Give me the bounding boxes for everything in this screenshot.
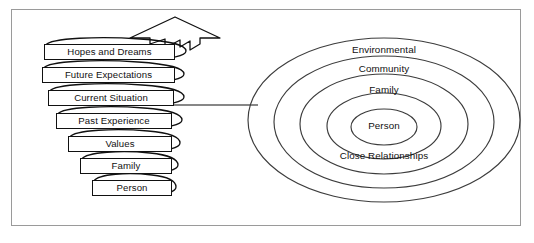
spiral-level-future-expectations[interactable]: Future Expectations bbox=[42, 67, 175, 83]
spiral-level-label: Values bbox=[105, 138, 134, 149]
spiral-level-label: Family bbox=[112, 160, 141, 171]
spiral-level-label: Current Situation bbox=[74, 92, 148, 103]
figure-container: Hopes and Dreams Future Expectations Cur… bbox=[0, 0, 534, 243]
ring-label-family: Family bbox=[344, 84, 424, 95]
spiral-level-past-experience[interactable]: Past Experience bbox=[56, 113, 172, 129]
ring-label-environmental: Environmental bbox=[334, 44, 434, 55]
spiral-level-label: Future Expectations bbox=[65, 69, 152, 80]
ring-label-close-relationships: Close Relationships bbox=[339, 150, 429, 162]
ring-label-community: Community bbox=[334, 63, 434, 74]
spiral-level-hopes-and-dreams[interactable]: Hopes and Dreams bbox=[44, 44, 175, 60]
spiral-level-label: Hopes and Dreams bbox=[67, 46, 151, 57]
ring-label-person: Person bbox=[354, 120, 414, 131]
spiral-level-family[interactable]: Family bbox=[80, 158, 172, 174]
spiral-level-current-situation[interactable]: Current Situation bbox=[48, 90, 174, 106]
spiral-level-values[interactable]: Values bbox=[68, 136, 172, 152]
spiral-level-label: Past Experience bbox=[78, 115, 149, 126]
spiral-level-person[interactable]: Person bbox=[92, 180, 172, 196]
spiral-level-label: Person bbox=[117, 182, 148, 193]
